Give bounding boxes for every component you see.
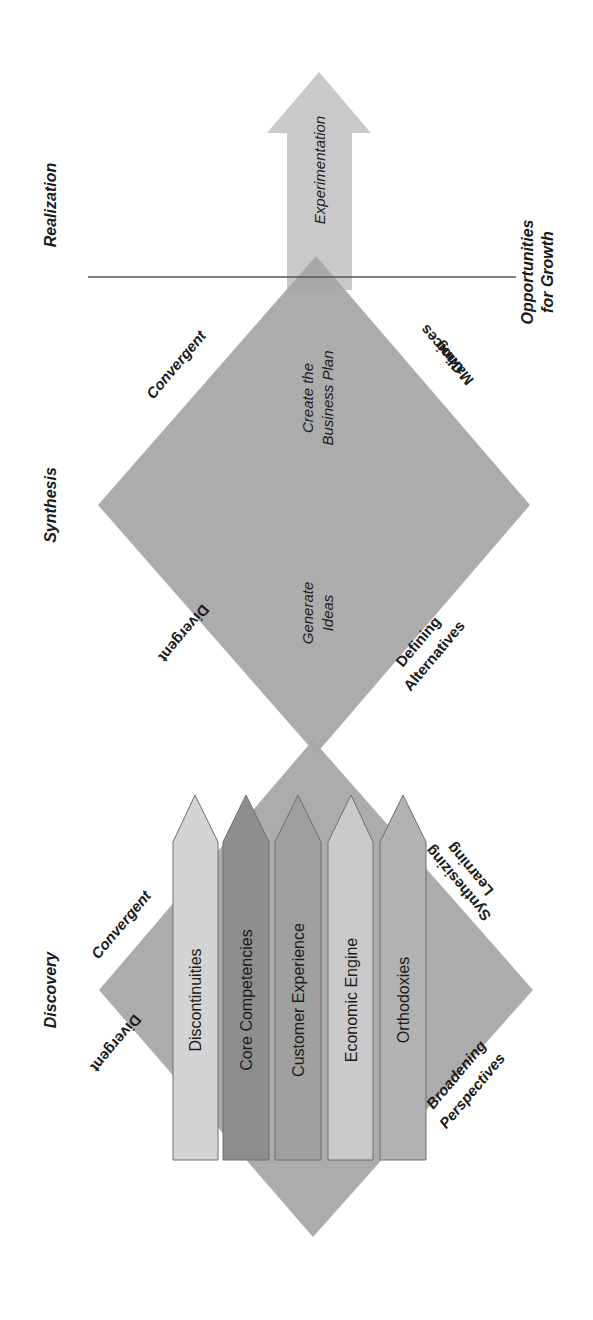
experimentation-arrow: Experimentation: [267, 72, 371, 290]
experimentation-label: Experimentation: [311, 116, 328, 224]
svg-text:Generate: Generate: [299, 582, 316, 645]
stage-discovery-label: Discovery: [42, 951, 59, 1029]
svg-text:Ideas: Ideas: [319, 594, 336, 631]
svg-text:Business Plan: Business Plan: [319, 350, 336, 445]
svg-text:for Growth: for Growth: [539, 231, 556, 313]
opportunities-for-growth-label: Opportunities for Growth: [519, 219, 556, 324]
svg-text:Discontinuities: Discontinuities: [187, 948, 204, 1051]
svg-text:Economic Engine: Economic Engine: [343, 938, 360, 1063]
svg-text:Create the: Create the: [299, 363, 316, 433]
discovery-divergent-label: Divergent: [87, 1012, 144, 1076]
svg-text:Orthodoxies: Orthodoxies: [395, 957, 412, 1043]
discovery-synthesis-realization-diagram: Experimentation Realization Synthesis Di…: [0, 0, 593, 1320]
synthesis-divergent-label: Divergent: [155, 602, 212, 666]
lens-column-core-competencies: Core Competencies: [223, 795, 269, 1160]
svg-text:Choices: Choices: [417, 322, 468, 378]
svg-text:Core Competencies: Core Competencies: [238, 929, 255, 1070]
lens-columns: Discontinuities Core Competencies Custom…: [173, 795, 426, 1160]
stage-synthesis-label: Synthesis: [42, 467, 59, 543]
synthesis-diamond: [98, 256, 530, 754]
svg-text:Opportunities: Opportunities: [519, 219, 536, 324]
svg-text:Customer Experience: Customer Experience: [290, 923, 307, 1077]
lens-column-economic-engine: Economic Engine: [328, 795, 373, 1160]
stage-realization-label: Realization: [42, 163, 59, 248]
lens-column-customer-experience: Customer Experience: [275, 795, 321, 1160]
lens-column-discontinuities: Discontinuities: [173, 795, 218, 1160]
making-choices-label: Making Choices: [417, 322, 477, 389]
lens-column-orthodoxies: Orthodoxies: [380, 795, 426, 1160]
